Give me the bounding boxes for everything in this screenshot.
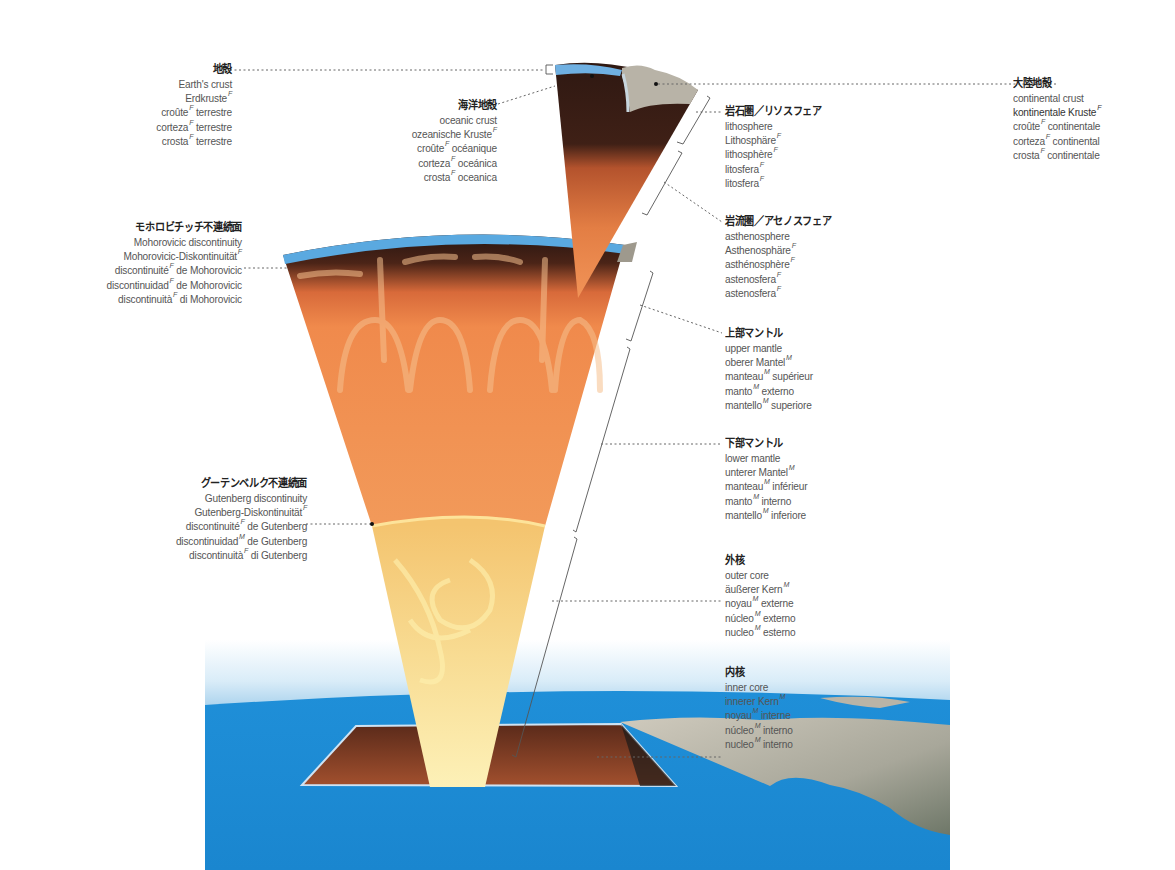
label-upper-mantle: 上部マントル upper mantle oberer MantelM mante… (725, 326, 813, 412)
label-continental-crust: 大陸地殻 continental crust kontinentale Krus… (1013, 76, 1101, 162)
label-inner-core: 内核 inner core innerer KernM noyauM inter… (725, 665, 793, 751)
label-earth-crust: 地殻 Earth's crust ErdkrusteF croûteF terr… (156, 62, 232, 148)
label-gutenberg-discontinuity: グーテンベルク不連続面 Gutenberg discontinuity Gute… (176, 476, 307, 562)
label-mohorovicic-discontinuity: モホロビチッチ不連続面 Mohorovicic discontinuity Mo… (107, 220, 242, 306)
label-outer-core: 外核 outer core äußerer KernM noyauM exter… (725, 553, 796, 639)
mantle-wedge (283, 235, 626, 526)
label-lithosphere: 岩石圏／リソスフェア lithosphere LithosphäreF lith… (725, 104, 822, 190)
globe-surface (205, 640, 950, 870)
label-title: 地殻 (156, 62, 232, 77)
label-lower-mantle: 下部マントル lower mantle unterer MantelM mant… (725, 436, 807, 522)
label-asthenosphere: 岩流圏／アセノスフェア asthenosphere AsthenosphäreF… (725, 214, 831, 300)
crust-detail-wedge (555, 63, 698, 298)
label-oceanic-crust: 海洋地殻 oceanic crust ozeanische KrusteF cr… (412, 98, 497, 184)
